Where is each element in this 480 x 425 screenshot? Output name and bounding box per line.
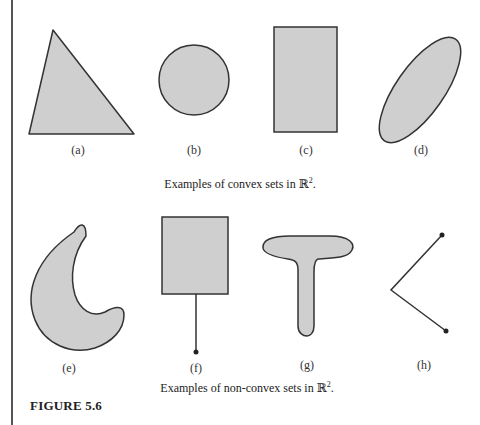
- label-d: (d): [414, 143, 428, 158]
- label-c: (c): [299, 143, 312, 158]
- nonconvex-caption-space: ℝ: [317, 381, 327, 395]
- label-g: (g): [300, 358, 314, 373]
- shape-f-endpoint: [194, 350, 199, 355]
- convex-caption-text: Examples of convex sets in: [164, 177, 298, 191]
- label-e: (e): [62, 361, 75, 376]
- label-a: (a): [71, 143, 84, 158]
- shape-d-ellipse: [365, 25, 475, 154]
- shape-h-endpoint-bottom: [444, 329, 449, 334]
- shape-h-polyline: [391, 235, 446, 331]
- nonconvex-caption-text: Examples of non-convex sets in: [160, 381, 316, 395]
- convex-caption: Examples of convex sets in ℝ2.: [164, 176, 315, 192]
- shape-h-endpoint-top: [440, 233, 445, 238]
- convex-caption-period: .: [313, 177, 316, 191]
- label-h: (h): [417, 358, 431, 373]
- label-b: (b): [187, 143, 201, 158]
- nonconvex-caption: Examples of non-convex sets in ℝ2.: [160, 380, 333, 396]
- shape-g-t-shape: [263, 236, 353, 336]
- shape-b-circle: [159, 45, 229, 115]
- shape-f-rectangle: [162, 217, 228, 294]
- nonconvex-caption-period: .: [331, 381, 334, 395]
- figure-title: FIGURE 5.6: [30, 398, 102, 414]
- label-f: (f): [190, 361, 202, 376]
- shape-a-triangle: [29, 30, 134, 134]
- convex-caption-space: ℝ: [299, 177, 309, 191]
- shape-c-rectangle: [274, 27, 337, 132]
- shape-e-crescent: [31, 225, 124, 350]
